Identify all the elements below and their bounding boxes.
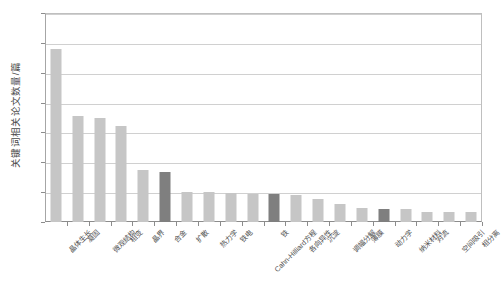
bar[interactable]	[116, 126, 127, 222]
x-axis-tick-mark	[176, 222, 177, 226]
bar-slot	[89, 13, 111, 222]
bar[interactable]	[291, 195, 302, 222]
x-axis-tick-mark	[198, 222, 199, 226]
x-axis-tick-mark	[220, 222, 221, 226]
bar[interactable]	[334, 204, 345, 223]
x-axis-tick-label: 晶界	[151, 229, 166, 244]
x-axis-tick-label: 扩散	[195, 229, 210, 244]
x-axis-tick-mark	[351, 222, 352, 226]
x-axis-tick-mark	[154, 222, 155, 226]
bar[interactable]	[50, 49, 61, 222]
bar[interactable]	[313, 199, 324, 222]
x-axis-tick-mark	[89, 222, 90, 226]
x-axis-tick-mark	[482, 222, 483, 226]
bar-slot	[132, 13, 154, 222]
bar-slot	[154, 13, 176, 222]
bar-slot	[67, 13, 89, 222]
x-axis-tick-mark	[460, 222, 461, 226]
bar[interactable]	[378, 209, 389, 222]
x-axis-tick-mark	[285, 222, 286, 226]
bar-slot	[307, 13, 329, 222]
bar-slot	[242, 13, 264, 222]
bar-slot	[373, 13, 395, 222]
y-axis-title: 关键词相关论文数量/篇	[8, 8, 22, 222]
bar[interactable]	[94, 118, 105, 222]
bar[interactable]	[269, 194, 280, 222]
x-axis-tick-mark	[438, 222, 439, 226]
bar[interactable]	[247, 194, 258, 222]
x-axis-tick-mark	[329, 222, 330, 226]
bar[interactable]	[356, 208, 367, 222]
bar[interactable]	[400, 209, 411, 222]
x-axis-tick-mark	[307, 222, 308, 226]
bar-slot	[416, 13, 438, 222]
bar-slot	[438, 13, 460, 222]
bar-slot	[285, 13, 307, 222]
bar-slot	[220, 13, 242, 222]
bar-slot	[176, 13, 198, 222]
x-axis-tick-label: 动力学	[394, 229, 414, 249]
bar-slot	[45, 13, 67, 222]
x-axis-tick-label: 合金	[173, 229, 188, 244]
bar[interactable]	[225, 193, 236, 222]
x-axis-tick-mark	[132, 222, 133, 226]
bar-slot	[460, 13, 482, 222]
bar[interactable]	[182, 192, 193, 222]
x-axis-tick-mark	[111, 222, 112, 226]
bar[interactable]	[160, 172, 171, 222]
bar-slot	[395, 13, 417, 222]
x-axis-tick-mark	[67, 222, 68, 226]
x-axis-tick-mark	[264, 222, 265, 226]
bar[interactable]	[72, 116, 83, 222]
bar-slot	[264, 13, 286, 222]
x-axis-tick-mark	[416, 222, 417, 226]
bar[interactable]	[466, 212, 477, 222]
bar[interactable]	[422, 212, 433, 222]
bar-group	[45, 13, 482, 222]
bar-slot	[111, 13, 133, 222]
x-axis-tick-label: 铁电	[239, 229, 254, 244]
x-axis-tick-mark	[395, 222, 396, 226]
bar-slot	[198, 13, 220, 222]
y-axis-tick-mark	[41, 222, 45, 223]
bar-slot	[329, 13, 351, 222]
x-axis-tick-mark	[373, 222, 374, 226]
x-axis-tick-mark	[242, 222, 243, 226]
bar[interactable]	[444, 212, 455, 222]
bar-slot	[351, 13, 373, 222]
x-axis-tick-label: 热力学	[219, 229, 239, 249]
bar[interactable]	[138, 170, 149, 222]
bar[interactable]	[203, 192, 214, 222]
x-axis-tick-label: 铁	[280, 229, 290, 239]
